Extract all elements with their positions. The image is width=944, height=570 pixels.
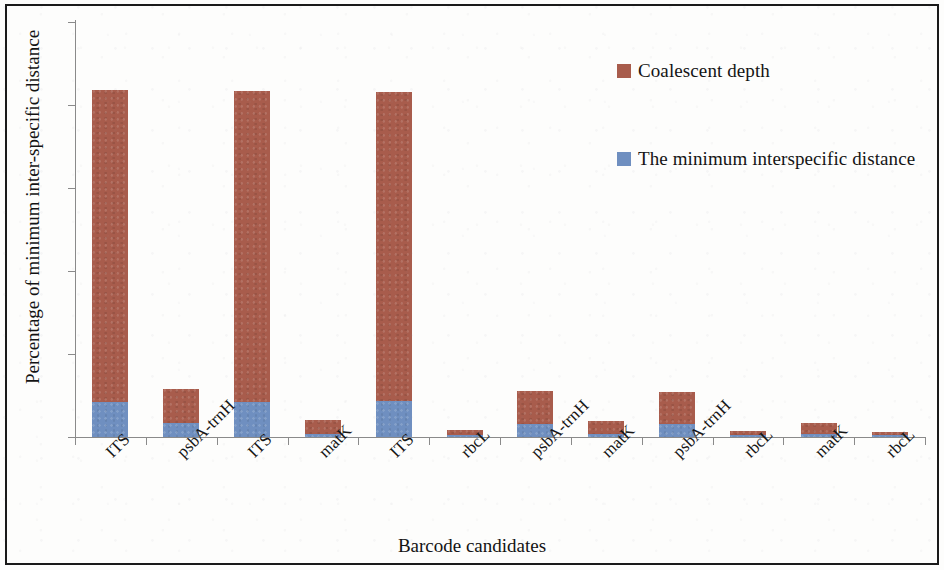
x-tick-mark (75, 437, 76, 445)
legend-item-minimum-interspecific-distance: The minimum interspecific distance (617, 148, 915, 170)
bar-2 (234, 91, 270, 437)
x-tick-mark (288, 437, 289, 445)
x-tick-mark (500, 437, 501, 445)
x-tick-mark (642, 437, 643, 445)
bar-segment-coalescent-depth (92, 90, 128, 402)
x-tick-mark (925, 437, 926, 445)
bar-segment-coalescent-depth (517, 391, 553, 423)
legend-item-coalescent-depth: Coalescent depth (617, 60, 915, 82)
x-tick-mark (358, 437, 359, 445)
bar-4 (376, 92, 412, 437)
bar-segment-coalescent-depth (163, 389, 199, 423)
bar-segment-coalescent-depth (376, 92, 412, 402)
x-tick-mark (429, 437, 430, 445)
legend-swatch-coalescent-depth (617, 64, 631, 78)
x-tick-mark (571, 437, 572, 445)
legend-swatch-minimum-interspecific-distance (617, 152, 631, 166)
figure-container: 00.511.522.5 ITSpsbA-trnHITSmatKITSrbcLp… (0, 0, 944, 570)
y-axis-title: Percentage of minimum inter-specific dis… (22, 0, 44, 422)
bar-segment-coalescent-depth (659, 392, 695, 424)
bar-0 (92, 90, 128, 437)
legend-label-coalescent-depth: Coalescent depth (638, 60, 770, 82)
bar-segment-coalescent-depth (234, 91, 270, 402)
x-tick-mark (854, 437, 855, 445)
x-axis-title: Barcode candidates (0, 535, 944, 557)
x-tick-mark (783, 437, 784, 445)
chart-legend: Coalescent depth The minimum interspecif… (617, 60, 915, 236)
legend-label-minimum-interspecific-distance: The minimum interspecific distance (638, 148, 915, 170)
x-tick-mark (217, 437, 218, 445)
x-tick-mark (146, 437, 147, 445)
x-tick-mark (713, 437, 714, 445)
